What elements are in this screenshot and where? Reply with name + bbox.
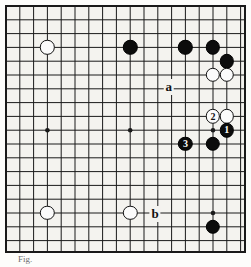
figure-caption-text: Fig. [18,254,32,264]
figure-caption: Fig. [0,253,251,267]
star-point [45,128,50,133]
go-grid-lines [7,7,244,251]
go-board-figure: 213 ab Fig. [0,0,251,267]
star-point [211,128,216,133]
star-point [211,211,216,216]
star-point [128,128,133,133]
go-board-surface[interactable] [5,5,246,253]
